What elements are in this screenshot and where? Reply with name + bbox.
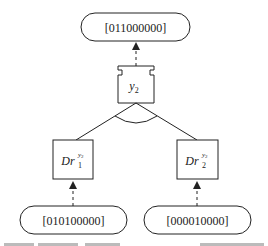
left-driver-subscript: 1 <box>78 161 82 170</box>
decomposition-edges <box>76 103 197 140</box>
right-state-node: [000010000] <box>144 206 251 234</box>
arrowhead-icon <box>193 181 201 189</box>
top-state-node: [011000000] <box>81 13 190 41</box>
diagram-canvas: [011000000] y2 Dr 1 y2 Dr 2 y2 <box>0 0 268 246</box>
arrow-right-state-to-driver <box>193 181 201 206</box>
goal-node: y2 <box>118 66 154 103</box>
left-state-node: [010100000] <box>20 206 127 234</box>
top-state-label: [011000000] <box>105 21 167 35</box>
right-driver-label: Dr <box>184 154 199 168</box>
arrowhead-icon <box>69 181 77 189</box>
arrow-goal-to-top-state <box>132 42 140 66</box>
svg-text:Dr: Dr <box>184 154 199 168</box>
right-state-label: [000010000] <box>167 214 229 228</box>
left-driver-label: Dr <box>60 154 75 168</box>
right-driver-node: Dr 2 y2 <box>177 140 218 179</box>
goal-subscript: 2 <box>135 86 139 95</box>
right-driver-subscript: 2 <box>202 161 206 170</box>
left-state-label: [010100000] <box>43 214 105 228</box>
svg-text:Dr: Dr <box>60 154 75 168</box>
arrow-left-state-to-driver <box>69 181 77 206</box>
and-arc <box>115 116 157 123</box>
arrowhead-icon <box>132 42 140 50</box>
left-driver-node: Dr 1 y2 <box>53 140 93 179</box>
